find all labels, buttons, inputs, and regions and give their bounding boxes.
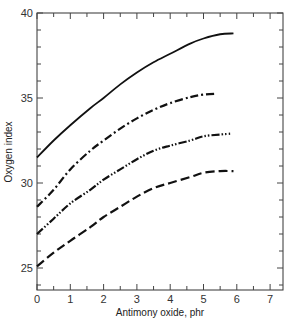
plot-frame [37, 13, 283, 290]
x-tick-label: 1 [67, 293, 73, 305]
x-tick-label: 2 [101, 293, 107, 305]
curve-dashed [37, 171, 233, 266]
x-tick-label: 0 [34, 293, 40, 305]
y-tick-label: 25 [21, 262, 33, 274]
x-tick-label: 4 [167, 293, 173, 305]
x-tick-label: 5 [200, 293, 206, 305]
y-tick-label: 30 [21, 177, 33, 189]
y-tick-label: 35 [21, 92, 33, 104]
line-chart: 0123456725303540 Antimony oxide, phr Oxy… [0, 0, 290, 321]
axis-ticks [37, 13, 283, 290]
data-curves [37, 33, 233, 266]
x-tick-label: 3 [134, 293, 140, 305]
y-axis-label: Oxygen index [3, 121, 14, 182]
curve-dash-dot [37, 94, 217, 207]
x-tick-label: 7 [267, 293, 273, 305]
plot-border [37, 13, 283, 290]
curve-dash-dot-dot [37, 134, 230, 234]
x-tick-label: 6 [234, 293, 240, 305]
y-tick-label: 40 [21, 7, 33, 19]
x-axis-label: Antimony oxide, phr [116, 307, 205, 318]
curve-solid [37, 33, 233, 157]
tick-labels: 0123456725303540 [21, 7, 273, 305]
